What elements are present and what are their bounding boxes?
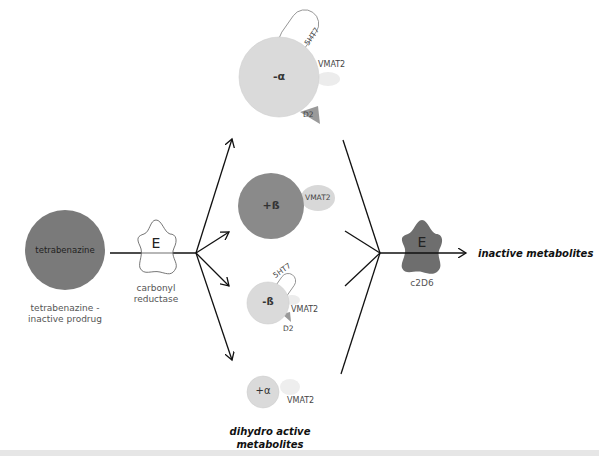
prodrug-caption-1: tetrabenazine -	[15, 303, 115, 314]
metabolite-label: -ß	[248, 296, 288, 307]
receptor-d2: D2	[283, 324, 294, 333]
output-label: inactive metabolites	[478, 247, 598, 260]
metabolite-label: -α	[259, 70, 299, 83]
receptor-vmat2: VMAT2	[287, 396, 314, 405]
enzyme1-caption-1: carbonyl	[130, 283, 182, 294]
receptor-d2: D2	[303, 110, 314, 119]
prodrug-caption-2: inactive prodrug	[15, 314, 115, 325]
receptor-vmat2: VMAT2	[291, 305, 318, 314]
bottom-strip	[0, 450, 599, 456]
metabolites-caption-1: dihydro active	[220, 425, 320, 438]
enzyme2-caption: c2D6	[402, 278, 442, 289]
enzyme2-symbol: E	[412, 234, 432, 250]
tetrabenazine-circle-label: tetrabenazine	[25, 245, 105, 256]
metabolite-label: +α	[243, 385, 283, 396]
receptor-vmat2: VMAT2	[318, 60, 345, 69]
enzyme1-caption-2: reductase	[130, 294, 182, 305]
enzyme1-symbol: E	[146, 235, 166, 251]
diagram-canvas	[0, 0, 599, 456]
metabolite-label: +ß	[251, 199, 291, 212]
receptor-vmat2: VMAT2	[305, 193, 331, 202]
